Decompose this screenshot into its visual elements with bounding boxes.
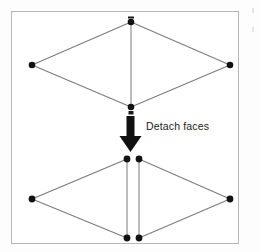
vertex-bottom	[128, 104, 135, 111]
edge-bottomright-right	[139, 199, 230, 238]
vertex-bottom-right	[136, 235, 143, 242]
scan-artifacts	[252, 8, 254, 32]
scan-speck-right-mid	[252, 27, 254, 32]
detach-faces-label: Detach faces	[146, 120, 209, 132]
figure-root: Detach faces	[0, 0, 260, 252]
vertex-bottom-left	[124, 235, 131, 242]
scan-speck-right-top	[252, 8, 254, 13]
down-arrow-icon	[120, 116, 142, 152]
detach-faces-diagram	[0, 0, 260, 252]
edge-bottom-right	[131, 65, 230, 107]
vertex-right	[227, 196, 234, 203]
edge-left-bottomleft	[32, 199, 127, 238]
edge-top-left	[32, 22, 131, 65]
before-mesh	[29, 17, 234, 115]
speck-below-bottom-vertex	[129, 111, 134, 115]
vertex-top	[128, 19, 135, 26]
vertex-left	[29, 62, 36, 69]
split-interior-edges	[127, 159, 139, 238]
after-outline-edges	[32, 159, 230, 238]
speck-above-top-vertex	[128, 17, 134, 19]
edge-topleft-left	[32, 159, 127, 199]
edge-left-bottom	[32, 65, 131, 107]
vertex-top-right	[136, 156, 143, 163]
after-mesh	[29, 156, 234, 242]
vertex-right	[227, 62, 234, 69]
edge-right-topright	[139, 159, 230, 199]
vertex-top-left	[124, 156, 131, 163]
vertex-left	[29, 196, 36, 203]
after-vertices	[29, 156, 234, 242]
edge-right-top	[131, 22, 230, 65]
down-arrow	[120, 116, 142, 152]
